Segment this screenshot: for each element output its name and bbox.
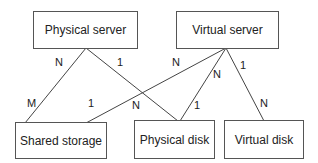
entity-physical-disk: Physical disk <box>134 120 215 159</box>
entity-label: Physical disk <box>140 133 209 147</box>
cardinality-label: N <box>132 99 140 111</box>
cardinality-label: N <box>55 56 63 68</box>
cardinality-label: N <box>213 68 221 80</box>
entity-label: Virtual server <box>192 23 262 37</box>
cardinality-label: N <box>260 97 268 109</box>
cardinality-label: 1 <box>194 99 200 111</box>
edge-virtual-server-shared-storage <box>86 48 226 123</box>
entity-label: Shared storage <box>20 134 102 148</box>
cardinality-label: 1 <box>240 59 246 71</box>
entity-label: Virtual disk <box>235 133 293 147</box>
cardinality-label: M <box>27 97 36 109</box>
cardinality-label: 1 <box>88 97 94 109</box>
cardinality-label: 1 <box>117 56 123 68</box>
edge-virtual-server-physical-disk <box>180 48 226 121</box>
entity-virtual-disk: Virtual disk <box>224 120 304 159</box>
entity-virtual-server: Virtual server <box>176 11 279 49</box>
entity-label: Physical server <box>45 23 126 37</box>
entity-shared-storage: Shared storage <box>15 122 107 159</box>
entity-physical-server: Physical server <box>33 11 138 49</box>
cardinality-label: N <box>172 56 180 68</box>
